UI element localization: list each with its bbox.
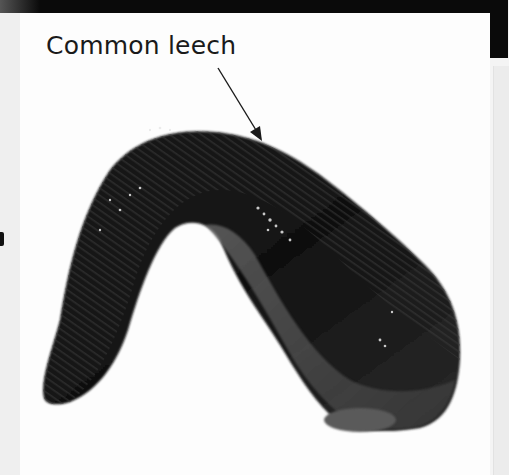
arrow-pointer xyxy=(218,68,262,141)
leech-body xyxy=(43,127,460,432)
leech-label: Common leech xyxy=(46,31,236,60)
